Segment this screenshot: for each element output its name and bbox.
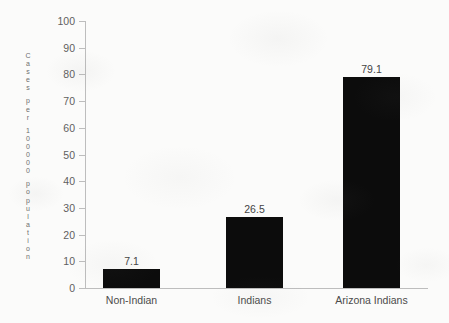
y-axis-tick — [79, 101, 86, 102]
x-axis-tick-label-indians: Indians — [204, 295, 305, 306]
y-axis-tick — [79, 235, 86, 236]
y-axis-tick — [79, 48, 86, 49]
bar-chart-figure: Casesper100000population 100 90 80 70 60… — [0, 0, 449, 323]
bar-value-label: 79.1 — [343, 64, 400, 75]
y-axis-tick — [79, 208, 86, 209]
y-axis-tick-label: 10 — [45, 256, 75, 267]
bar-arizona-indians[interactable] — [343, 77, 400, 288]
y-axis-tick-label: 30 — [45, 203, 75, 214]
y-axis-tick-label: 80 — [45, 69, 75, 80]
x-axis-tick-label-arizona-indians: Arizona Indians — [321, 295, 422, 306]
y-axis-tick — [79, 74, 86, 75]
y-axis-tick — [79, 155, 86, 156]
y-axis-title: Casesper100000population — [20, 52, 36, 261]
y-axis-tick-label: 60 — [45, 123, 75, 134]
y-axis-tick-label: 70 — [45, 96, 75, 107]
x-axis-line — [85, 288, 428, 289]
bar-value-label: 26.5 — [226, 204, 283, 215]
y-axis-tick-label: 90 — [45, 43, 75, 54]
y-axis-tick-label: 20 — [45, 230, 75, 241]
y-axis-tick-label: 50 — [45, 150, 75, 161]
y-axis-tick-label: 0 — [45, 283, 75, 294]
y-axis-tick — [79, 261, 86, 262]
bar-value-label: 7.1 — [103, 256, 160, 267]
y-axis-tick — [79, 21, 86, 22]
y-axis-tick — [79, 181, 86, 182]
bar-non-indian[interactable] — [103, 269, 160, 288]
x-axis-tick-label-non-indian: Non-Indian — [81, 295, 182, 306]
y-axis-tick-label: 100 — [45, 16, 75, 27]
y-axis-tick — [79, 128, 86, 129]
bar-indians[interactable] — [226, 217, 283, 288]
y-axis-tick-label: 40 — [45, 176, 75, 187]
y-axis-tick — [79, 288, 86, 289]
